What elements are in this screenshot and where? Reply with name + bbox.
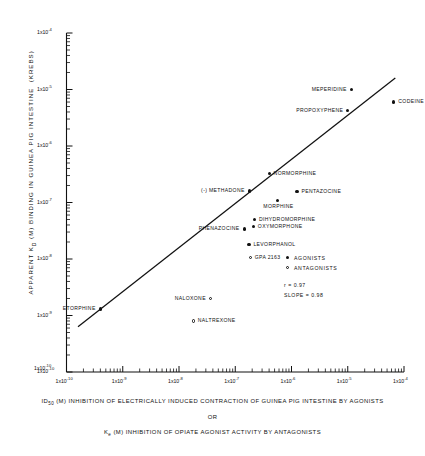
data-point-label-etorphine: ETORPHINE [63, 306, 96, 311]
data-point-meperidine[interactable] [350, 88, 353, 91]
y-tick-label-0: 1x10-4 [37, 30, 52, 35]
data-point-label-codeine: CODEINE [398, 99, 424, 104]
data-point-label-meperidine: MEPERIDINE [312, 87, 347, 92]
data-point-label-dihydromorphine: DIHYDROMORPHINE [259, 217, 315, 222]
x-tick-label-0: 1x10-10 [56, 379, 73, 384]
data-point-label-levorphanol: LEVORPHANOL [253, 242, 295, 247]
x-axis-caption-secondary: Ke (M) INHIBITION OF OPIATE AGONIST ACTI… [0, 429, 425, 435]
y-tick-exponent-2: -6 [48, 141, 52, 146]
x-axis-caption-secondary-text: (M) INHIBITION OF OPIATE AGONIST ACTIVIT… [111, 429, 321, 435]
x-axis-caption-or: OR [0, 414, 425, 420]
data-point-label-normorphine: NORMORPHINE [274, 171, 317, 176]
x-tick-label-4: 1x10-6 [281, 379, 296, 384]
y-tick-exponent-5: -9 [48, 310, 52, 315]
x-tick-label-2: 1x10-8 [168, 379, 183, 384]
data-point-label-methadone: (-) METHADONE [201, 188, 245, 193]
data-point-methadone[interactable] [248, 189, 251, 192]
regression-line [78, 78, 395, 327]
stat-correlation: r = 0.97 [284, 282, 306, 288]
origin-corner-label: 1x10-10 [34, 366, 51, 371]
data-point-label-naltrexone: NALTREXONE [198, 318, 236, 323]
y-tick-exponent-0: -4 [48, 28, 52, 33]
stat-slope: SLOPE = 0.98 [284, 292, 323, 298]
data-point-normorphine[interactable] [268, 172, 271, 175]
y-tick-label-1: 1x10-5 [37, 87, 52, 92]
data-point-label-pentazocine: PENTAZOCINE [301, 189, 341, 194]
x-axis-caption-primary: ID50 (M) INHIBITION OF ELECTRICALLY INDU… [0, 398, 425, 404]
data-point-phenazocine[interactable] [243, 227, 246, 230]
x-tick-label-6: 1x10-4 [393, 379, 408, 384]
data-point-levorphanol[interactable] [247, 243, 250, 246]
y-tick-exponent-4: -8 [48, 254, 52, 259]
y-axis-ticks [67, 33, 73, 372]
x-tick-exponent-0: -10 [67, 376, 73, 381]
data-point-etorphine[interactable] [99, 307, 102, 310]
x-tick-exponent-4: -6 [292, 376, 296, 381]
data-point-label-naloxone: NALOXONE [175, 296, 206, 301]
x-tick-exponent-1: -9 [123, 376, 127, 381]
x-axis-caption-primary-text: (M) INHIBITION OF ELECTRICALLY INDUCED C… [54, 398, 383, 404]
data-point-label-morphine: MORPHINE [263, 204, 293, 209]
x-tick-label-3: 1x10-7 [224, 379, 239, 384]
x-tick-exponent-2: -8 [179, 376, 183, 381]
y-tick-exponent-1: -5 [48, 84, 52, 89]
legend-label-agonists: AGONISTS [294, 255, 326, 261]
data-point-label-phenazocine: PHENAZOCINE [199, 226, 240, 231]
x-tick-label-5: 1x10-5 [337, 379, 352, 384]
y-tick-label-2: 1x10-6 [37, 143, 52, 148]
x-tick-exponent-3: -7 [236, 376, 240, 381]
x-axis-ticks [67, 366, 405, 372]
y-tick-label-5: 1x10-9 [37, 313, 52, 318]
data-point-label-propoxyphene: PROPOXYPHENE [296, 108, 343, 113]
origin-corner-exponent: -10 [45, 363, 51, 368]
y-tick-label-4: 1x10-8 [37, 256, 52, 261]
data-point-naloxone[interactable] [209, 297, 212, 300]
data-point-pentazocine[interactable] [295, 190, 298, 193]
data-point-naltrexone[interactable] [192, 319, 195, 322]
data-point-label-oxymorphone: OXYMORPHONE [258, 224, 303, 229]
legend-label-antagonists: ANTAGONISTS [294, 265, 337, 271]
scatter-plot-figure: APPARENT KD (M) BINDING IN GUINEA PIG IN… [0, 0, 425, 456]
y-tick-exponent-3: -7 [48, 197, 52, 202]
x-tick-exponent-5: -5 [348, 376, 352, 381]
data-point-label-gpa-2163: GPA 2163 [255, 255, 281, 260]
data-point-morphine[interactable] [276, 199, 279, 202]
x-tick-label-1: 1x10-9 [112, 379, 127, 384]
x-tick-exponent-6: -4 [404, 376, 408, 381]
y-tick-label-3: 1x10-7 [37, 200, 52, 205]
